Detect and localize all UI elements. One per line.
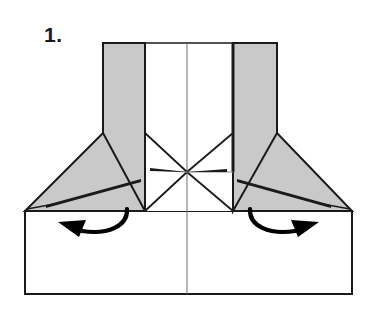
center-right-panel: [187, 43, 233, 211]
center-left-panel: [145, 43, 187, 211]
origami-diagram-svg: [0, 0, 372, 313]
origami-step-figure: 1.: [0, 0, 372, 313]
